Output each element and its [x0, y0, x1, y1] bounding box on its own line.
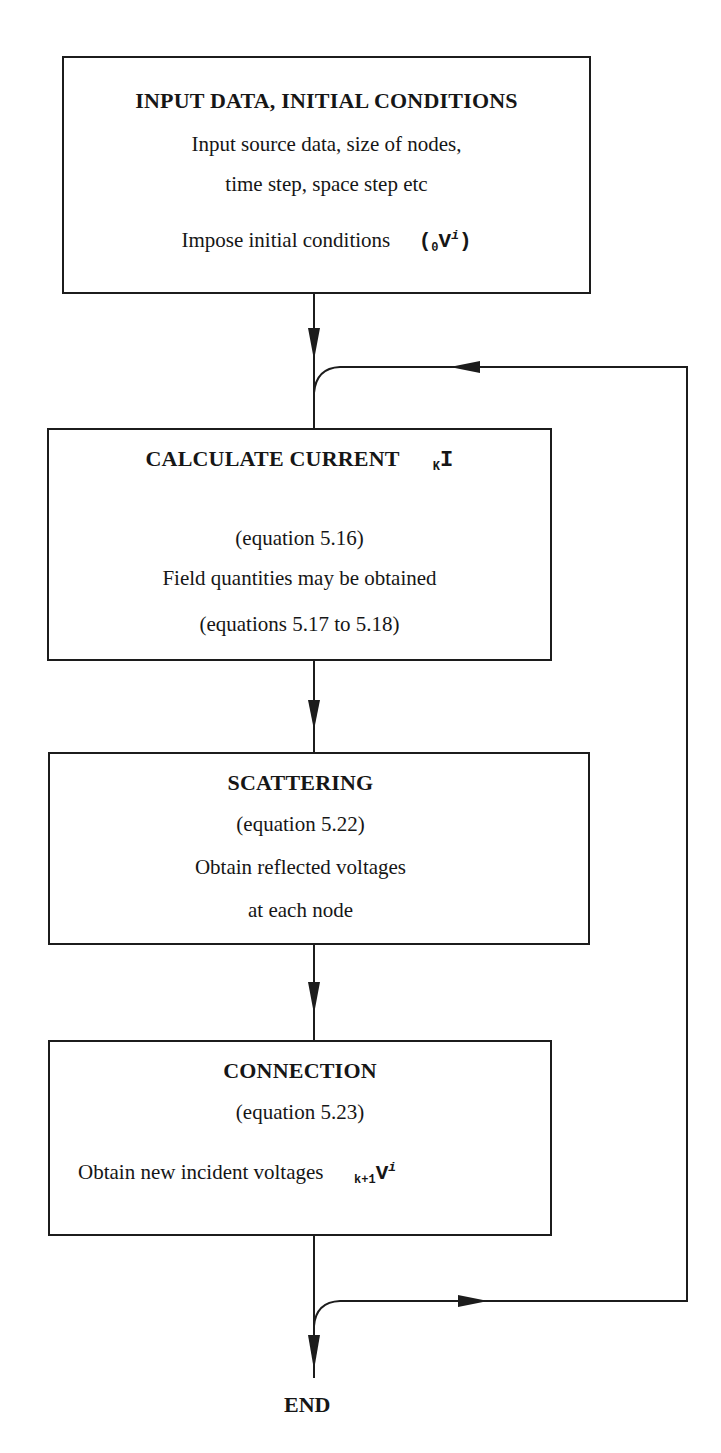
- impose-initial-conditions-text: Impose initial conditions: [181, 228, 390, 252]
- symbol-subscript: k+1: [354, 1173, 376, 1187]
- scattering-line-3: at each node: [48, 898, 553, 923]
- scattering-title: SCATTERING: [48, 770, 553, 796]
- input-box-line-2: time step, space step etc: [62, 172, 591, 197]
- symbol-main: V: [376, 1162, 389, 1185]
- connection-line-2: Obtain new incident voltages k+1Vi: [78, 1160, 396, 1187]
- input-box-title: INPUT DATA, INITIAL CONDITIONS: [62, 88, 591, 114]
- calculate-current-title: CALCULATE CURRENT KI: [47, 446, 552, 474]
- incident-voltage-symbol: k+1Vi: [354, 1162, 396, 1185]
- current-symbol: KI: [433, 448, 454, 473]
- initial-voltage-symbol: (0Vi): [419, 230, 472, 253]
- paren-close: ): [459, 230, 472, 253]
- end-label: END: [284, 1392, 330, 1418]
- connection-title: CONNECTION: [48, 1058, 552, 1084]
- scattering-line-1: (equation 5.22): [48, 812, 553, 837]
- input-box-line-3: Impose initial conditions (0Vi): [62, 228, 591, 255]
- symbol-superscript: i: [388, 1160, 396, 1175]
- symbol-superscript: i: [451, 228, 459, 243]
- calculate-current-line-1: (equation 5.16): [47, 526, 552, 551]
- symbol-main: I: [440, 448, 453, 473]
- calculate-current-title-text: CALCULATE CURRENT: [145, 446, 399, 471]
- symbol-main: V: [439, 230, 452, 253]
- connection-line-1: (equation 5.23): [48, 1100, 552, 1125]
- calculate-current-line-2: Field quantities may be obtained: [47, 566, 552, 591]
- symbol-subscript: K: [433, 460, 440, 474]
- calculate-current-line-3: (equations 5.17 to 5.18): [47, 612, 552, 637]
- new-incident-voltages-text: Obtain new incident voltages: [78, 1160, 324, 1184]
- symbol-subscript: 0: [431, 241, 438, 255]
- input-box-line-1: Input source data, size of nodes,: [62, 132, 591, 157]
- scattering-line-2: Obtain reflected voltages: [48, 855, 553, 880]
- paren-open: (: [419, 230, 432, 253]
